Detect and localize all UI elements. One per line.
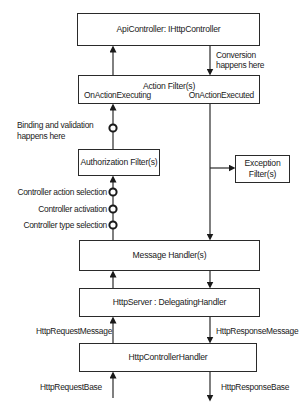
controller-activation-label: Controller activation [38, 204, 107, 214]
binding-label-line1: Binding and validation [17, 120, 93, 130]
http-response-message-label: HttpResponseMessage [216, 326, 298, 336]
exception-filters-label-line2: Filter(s) [249, 169, 276, 180]
http-server-box: HttpServer : DelegatingHandler [79, 288, 260, 317]
on-action-executed-label: OnActionExecuted [189, 90, 254, 100]
type-selection-circle-icon [109, 221, 116, 228]
conversion-label-line2: happens here [216, 60, 264, 70]
on-action-executing-label: OnActionExecuting [84, 90, 151, 100]
action-filters-box: Action Filter(s) OnActionExecuting OnAct… [78, 75, 260, 104]
http-request-base-label: HttpRequestBase [40, 382, 102, 392]
http-controller-handler-label: HttpControllerHandler [129, 352, 208, 363]
http-server-label: HttpServer : DelegatingHandler [113, 297, 226, 308]
activation-circle-icon [109, 205, 116, 212]
http-controller-handler-box: HttpControllerHandler [79, 343, 257, 372]
message-handlers-box: Message Handler(s) [79, 240, 260, 271]
http-request-message-label: HttpRequestMessage [36, 326, 112, 336]
controller-type-selection-label: Controller type selection [23, 220, 107, 230]
message-handlers-label: Message Handler(s) [133, 250, 207, 261]
authorization-filters-box: Authorization Filter(s) [78, 149, 160, 176]
binding-circle-icon [109, 124, 116, 131]
authorization-filters-label: Authorization Filter(s) [80, 157, 157, 168]
conversion-label-line1: Conversion [216, 50, 256, 60]
exception-filters-box: Exception Filter(s) [235, 155, 290, 183]
exception-filters-label-line1: Exception [245, 158, 281, 169]
binding-label-line2: happens here [17, 131, 65, 141]
api-controller-box: ApiController: IHttpController [77, 13, 260, 46]
api-controller-label: ApiController: IHttpController [117, 24, 221, 35]
controller-action-selection-label: Controller action selection [17, 187, 107, 197]
action-selection-circle-icon [109, 188, 116, 195]
http-response-base-label: HttpResponseBase [221, 382, 289, 392]
